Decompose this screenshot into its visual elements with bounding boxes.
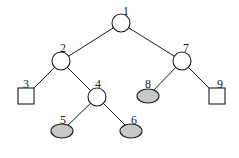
node-label-5: 5: [60, 113, 66, 127]
node-label-9: 9: [217, 77, 223, 91]
edge-1-7: [121, 23, 182, 61]
node-label-8: 8: [145, 77, 151, 91]
node-label-2: 2: [60, 41, 66, 55]
node-8-ellipse: [137, 89, 159, 103]
node-label-7: 7: [183, 41, 189, 55]
tree-edges: [26, 23, 217, 131]
node-label-4: 4: [95, 77, 101, 91]
node-label-3: 3: [23, 77, 29, 91]
binary-tree-diagram: 123456789: [0, 0, 239, 158]
node-label-1: 1: [123, 4, 129, 18]
edge-1-2: [61, 23, 121, 61]
node-label-6: 6: [131, 113, 137, 127]
tree-nodes: [18, 14, 225, 138]
